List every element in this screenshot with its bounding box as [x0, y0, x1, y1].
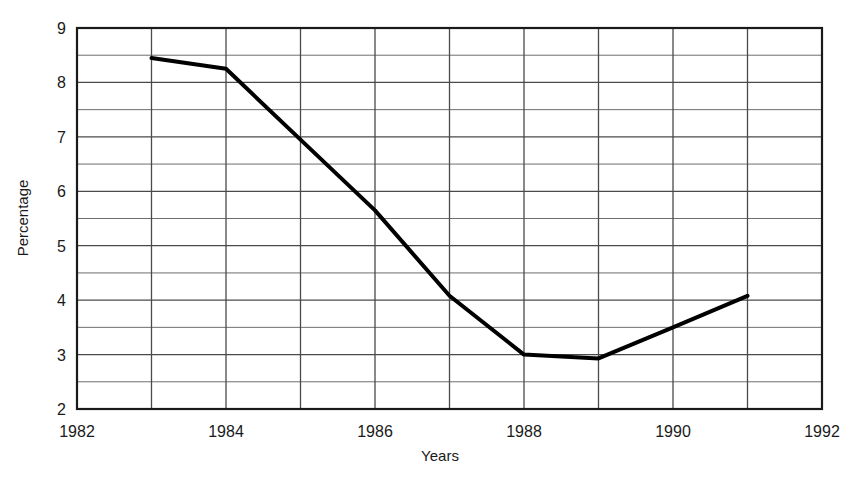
y-tick-label: 3 [57, 347, 66, 364]
x-tick-label: 1986 [357, 423, 393, 440]
y-tick-label: 6 [57, 183, 66, 200]
y-axis-title: Percentage [14, 180, 31, 257]
chart-background [0, 0, 853, 484]
y-tick-label: 5 [57, 238, 66, 255]
y-tick-label: 7 [57, 129, 66, 146]
chart-container: 23456789 198219841986198819901992 Percen… [0, 0, 853, 484]
x-tick-label: 1984 [208, 423, 244, 440]
line-chart: 23456789 198219841986198819901992 Percen… [0, 0, 853, 484]
x-tick-label: 1992 [804, 423, 840, 440]
x-tick-label: 1990 [655, 423, 691, 440]
y-tick-label: 2 [57, 401, 66, 418]
y-tick-label: 4 [57, 292, 66, 309]
y-tick-label: 9 [57, 20, 66, 37]
x-tick-label: 1982 [59, 423, 95, 440]
y-tick-label: 8 [57, 74, 66, 91]
x-axis-title: Years [421, 447, 459, 464]
x-tick-label: 1988 [506, 423, 542, 440]
